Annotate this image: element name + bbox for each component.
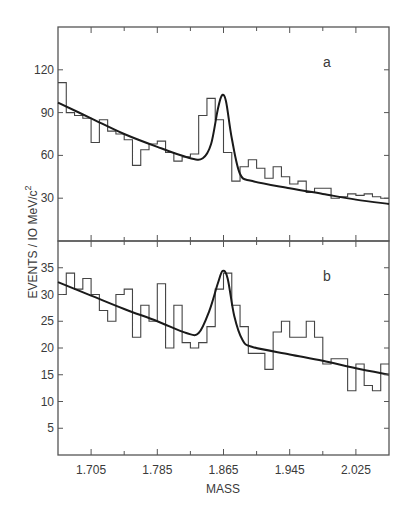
y-tick-label: 120 xyxy=(34,63,54,77)
y-tick-label: 25 xyxy=(41,314,55,328)
y-tick-label: 30 xyxy=(41,191,55,205)
y-tick-label: 35 xyxy=(41,261,55,275)
x-tick-label: 1.785 xyxy=(142,463,172,477)
x-tick-label: 1.705 xyxy=(76,463,106,477)
histogram-panel-a xyxy=(58,83,389,199)
histogram-steps-a xyxy=(58,83,389,199)
x-axis-title: MASS xyxy=(206,482,240,496)
y-tick-label: 30 xyxy=(41,288,55,302)
y-axis-title: EVENTS / IO MeV/c2 xyxy=(23,185,40,298)
histogram-chart: 30609012051015202530351.7051.7851.8651.9… xyxy=(0,0,411,512)
y-tick-label: 15 xyxy=(41,368,55,382)
axis-labels: a b MASS EVENTS / IO MeV/c2 xyxy=(23,54,331,496)
chart-figure: 30609012051015202530351.7051.7851.8651.9… xyxy=(0,0,411,512)
y-axis-title-group: EVENTS / IO MeV/c2 xyxy=(23,185,40,298)
panel-a-label: a xyxy=(323,54,331,70)
y-tick-label: 60 xyxy=(41,148,55,162)
axis-ticks: 30609012051015202530351.7051.7851.8651.9… xyxy=(34,27,389,477)
x-tick-label: 1.945 xyxy=(275,463,305,477)
x-tick-label: 1.865 xyxy=(208,463,238,477)
panel-b-label: b xyxy=(323,268,331,284)
y-tick-label: 90 xyxy=(41,106,55,120)
y-tick-label: 20 xyxy=(41,341,55,355)
histogram-panel-b xyxy=(58,273,389,391)
histogram-steps-b xyxy=(58,273,389,391)
y-tick-label: 10 xyxy=(41,395,55,409)
x-tick-label: 2.025 xyxy=(341,463,371,477)
y-tick-label: 5 xyxy=(47,421,54,435)
